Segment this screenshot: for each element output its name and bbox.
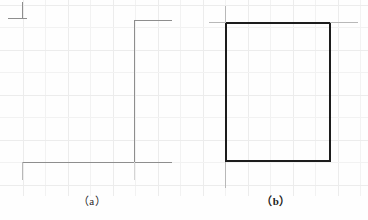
stroke-overshoot-top-right bbox=[330, 22, 358, 23]
figure-panel-a: （a） bbox=[0, 0, 184, 220]
caption-label-b: （b） bbox=[184, 192, 368, 208]
stroke-top-right-horizontal bbox=[134, 20, 172, 21]
figure-panel-b: （b） bbox=[184, 0, 368, 220]
stroke-overshoot-top-left-v bbox=[225, 6, 226, 23]
stroke-top-left-tick-horizontal bbox=[8, 18, 27, 19]
stroke-right-vertical bbox=[134, 20, 135, 163]
stroke-rect-bottom bbox=[225, 160, 331, 162]
stroke-overshoot-bottom-left bbox=[225, 162, 226, 188]
stroke-rect-left bbox=[225, 22, 227, 162]
stroke-overshoot-top-left-h bbox=[209, 22, 226, 23]
caption-label-a: （a） bbox=[0, 192, 184, 208]
stroke-bottom-horizontal bbox=[22, 162, 172, 163]
stroke-rect-top bbox=[225, 22, 331, 24]
stroke-rect-right bbox=[329, 22, 331, 162]
figure-canvas: （a） （b） bbox=[0, 0, 368, 220]
stroke-top-left-tick-vertical bbox=[22, 2, 23, 19]
stroke-bottom-right-stub bbox=[134, 162, 135, 180]
stroke-bottom-left-stub bbox=[22, 162, 23, 180]
